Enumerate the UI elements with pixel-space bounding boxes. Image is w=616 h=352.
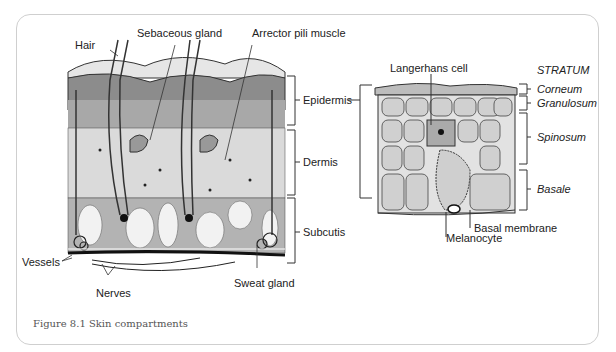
label-subcutis: Subcutis bbox=[303, 226, 346, 238]
label-corneum: Corneum bbox=[537, 83, 582, 95]
skin-cross-section bbox=[68, 40, 285, 271]
label-basale: Basale bbox=[537, 183, 571, 195]
label-spinosum: Spinosum bbox=[537, 131, 586, 143]
label-hair: Hair bbox=[75, 39, 96, 51]
label-nerves: Nerves bbox=[96, 287, 131, 299]
label-stratum: STRATUM bbox=[537, 64, 590, 76]
skin-diagram: Hair Sebaceous gland Arrector pili muscl… bbox=[0, 0, 616, 352]
label-sebaceous-gland: Sebaceous gland bbox=[137, 27, 222, 39]
epidermis-cells bbox=[375, 83, 517, 214]
label-vessels: Vessels bbox=[22, 256, 60, 268]
label-langerhans-cell: Langerhans cell bbox=[390, 62, 468, 74]
label-granulosum: Granulosum bbox=[537, 97, 597, 109]
label-melanocyte: Melanocyte bbox=[446, 232, 502, 244]
label-epidermis: Epidermis bbox=[303, 94, 352, 106]
label-dermis: Dermis bbox=[303, 156, 338, 168]
label-arrector-pili: Arrector pili muscle bbox=[252, 27, 346, 39]
layer-brackets bbox=[287, 76, 300, 263]
label-sweat-gland: Sweat gland bbox=[234, 277, 295, 289]
figure-caption: Figure 8.1 Skin compartments bbox=[33, 318, 188, 329]
